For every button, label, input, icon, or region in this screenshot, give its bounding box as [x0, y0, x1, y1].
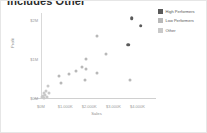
x-axis-line	[34, 98, 156, 99]
plot-area	[41, 13, 152, 98]
y-axis-tick-label: $0M	[30, 96, 38, 101]
legend-swatch-icon	[158, 28, 163, 33]
legend-item-label: Low Performers	[166, 18, 194, 23]
data-point[interactable]	[47, 85, 50, 88]
legend-low-performers[interactable]: Low Performers	[158, 18, 206, 24]
legend-other[interactable]: Other	[158, 27, 206, 33]
data-point[interactable]	[84, 78, 87, 81]
legend-item-label: Other	[166, 28, 176, 33]
data-point[interactable]	[43, 96, 46, 99]
data-point[interactable]	[47, 91, 50, 94]
y-axis-tick-label: $2M	[30, 18, 38, 23]
x-axis-tick-label: $2.000K	[82, 104, 97, 109]
data-point[interactable]	[139, 24, 143, 28]
data-point[interactable]	[67, 73, 70, 76]
x-axis-tick-label: $4.000K	[130, 104, 145, 109]
x-axis-tick-label: $0M	[37, 104, 45, 109]
data-point[interactable]	[58, 75, 61, 78]
x-axis-title: Sales	[41, 111, 152, 116]
data-point[interactable]	[45, 95, 48, 98]
data-point[interactable]	[96, 34, 99, 37]
data-point[interactable]	[104, 52, 107, 55]
data-point[interactable]	[81, 66, 84, 69]
data-point[interactable]	[85, 67, 88, 70]
legend-item-label: High Performers	[166, 9, 195, 14]
data-point[interactable]	[75, 69, 78, 72]
y-axis-title: Profit	[10, 38, 15, 48]
legend-swatch-icon	[158, 9, 163, 14]
data-point[interactable]	[84, 57, 87, 60]
data-point[interactable]	[126, 43, 130, 47]
y-axis-tick-label: $1M	[30, 57, 38, 62]
data-point[interactable]	[59, 82, 62, 85]
x-axis-tick-label: $1.000K	[58, 104, 73, 109]
legend: High PerformersLow PerformersOther	[158, 8, 206, 37]
data-point[interactable]	[130, 17, 134, 21]
data-point[interactable]	[95, 72, 98, 75]
y-axis-ticks: $0M$1M$2M	[15, 1, 38, 133]
legend-swatch-icon	[158, 18, 163, 23]
legend-high-performers[interactable]: High Performers	[158, 8, 206, 14]
data-point[interactable]	[129, 78, 132, 81]
x-axis-tick-label: $3.000K	[106, 104, 121, 109]
scatter-chart-card: Includes Other $0M$1M$2M Profit Sales Hi…	[0, 0, 207, 133]
